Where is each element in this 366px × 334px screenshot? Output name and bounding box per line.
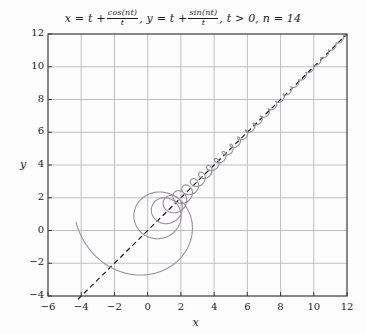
plot-area: [0, 0, 366, 334]
chart-figure: x = t +cos(nt)t, y = t +sin(nt)t, t > 0,…: [0, 0, 366, 334]
